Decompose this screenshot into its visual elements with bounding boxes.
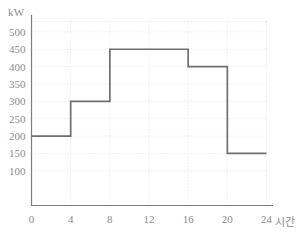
x-tick-label: 0 bbox=[29, 213, 35, 225]
step-chart: kW 시간 100150200250300350400450500 048121… bbox=[0, 0, 305, 240]
x-tick-label: 20 bbox=[222, 213, 234, 225]
y-tick-label: 200 bbox=[9, 130, 26, 142]
y-tick-label: 250 bbox=[9, 113, 26, 125]
x-tick-label: 8 bbox=[107, 213, 113, 225]
axis-lines bbox=[32, 16, 273, 206]
y-tick-label: 300 bbox=[9, 95, 26, 107]
x-tick-labels: 04812162024 bbox=[29, 213, 273, 225]
plot-area: 100150200250300350400450500 04812162024 bbox=[0, 0, 305, 240]
y-tick-label: 450 bbox=[9, 43, 26, 55]
y-tick-label: 350 bbox=[9, 78, 26, 90]
x-tick-label: 16 bbox=[183, 213, 195, 225]
y-tick-label: 400 bbox=[9, 61, 26, 73]
y-tick-label: 150 bbox=[9, 147, 26, 159]
x-tick-label: 24 bbox=[261, 213, 273, 225]
y-tick-label: 500 bbox=[9, 26, 26, 38]
x-tick-label: 12 bbox=[144, 213, 155, 225]
y-tick-labels: 100150200250300350400450500 bbox=[9, 26, 26, 177]
x-tick-label: 4 bbox=[68, 213, 74, 225]
y-tick-label: 100 bbox=[9, 165, 26, 177]
